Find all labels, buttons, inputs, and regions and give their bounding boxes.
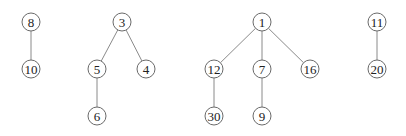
edge-1-12 xyxy=(220,28,255,62)
node-label: 4 xyxy=(143,62,150,77)
node-7: 7 xyxy=(253,60,271,78)
node-label: 10 xyxy=(25,62,38,77)
nodes-layer: 81035461127163091120 xyxy=(22,13,386,125)
node-1: 1 xyxy=(253,13,271,31)
node-label: 7 xyxy=(259,62,266,77)
node-12: 12 xyxy=(205,60,223,78)
node-16: 16 xyxy=(301,60,319,78)
edges-layer xyxy=(31,28,377,107)
edge-1-16 xyxy=(268,28,303,62)
node-10: 10 xyxy=(22,60,40,78)
node-label: 20 xyxy=(371,62,384,77)
node-label: 11 xyxy=(371,15,384,30)
node-label: 16 xyxy=(304,62,318,77)
node-label: 12 xyxy=(208,62,221,77)
node-label: 6 xyxy=(94,109,101,124)
edge-3-5 xyxy=(101,30,118,61)
node-label: 8 xyxy=(28,15,35,30)
forest-diagram-svg: 81035461127163091120 xyxy=(0,0,406,136)
node-label: 5 xyxy=(94,62,101,77)
node-label: 9 xyxy=(259,109,266,124)
node-label: 3 xyxy=(119,15,126,30)
node-9: 9 xyxy=(253,107,271,125)
node-4: 4 xyxy=(137,60,155,78)
node-label: 1 xyxy=(259,15,266,30)
node-label: 30 xyxy=(208,109,221,124)
node-3: 3 xyxy=(113,13,131,31)
edge-3-4 xyxy=(126,30,142,61)
node-8: 8 xyxy=(22,13,40,31)
node-30: 30 xyxy=(205,107,223,125)
node-20: 20 xyxy=(368,60,386,78)
node-6: 6 xyxy=(88,107,106,125)
node-5: 5 xyxy=(88,60,106,78)
forest-diagram: 81035461127163091120 xyxy=(0,0,406,136)
node-11: 11 xyxy=(368,13,386,31)
